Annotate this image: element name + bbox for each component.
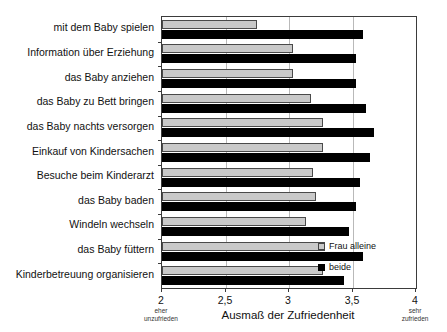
y-axis-tick	[158, 165, 162, 166]
bar-frau-alleine	[162, 168, 313, 177]
category-label: Einkauf von Kindersachen	[0, 146, 154, 157]
bar-frau-alleine	[162, 192, 316, 201]
bar-group	[162, 214, 416, 239]
bar-group	[162, 42, 416, 67]
y-axis-tick	[158, 214, 162, 215]
bar-group	[162, 91, 416, 116]
chart-legend: Frau alleine beide	[318, 241, 376, 283]
bar-frau-alleine	[162, 94, 311, 103]
category-label: Windeln wechseln	[0, 219, 154, 230]
bar-group	[162, 17, 416, 42]
category-label: das Baby füttern	[0, 244, 154, 255]
legend-swatch-beide	[318, 264, 325, 271]
x-axis-title: Ausmaß der Zufriedenheit	[161, 309, 415, 321]
category-label: das Baby nachts versorgen	[0, 121, 154, 132]
y-axis-tick	[158, 116, 162, 117]
y-axis-tick	[158, 140, 162, 141]
x-axis-tick	[288, 288, 289, 292]
x-axis-tick-label: 2	[141, 294, 181, 306]
bar-group	[162, 263, 416, 288]
y-axis-tick	[158, 239, 162, 240]
bar-group	[162, 116, 416, 141]
plot-area	[161, 16, 417, 289]
category-label: mit dem Baby spielen	[0, 22, 154, 33]
bar-beide	[162, 202, 356, 211]
bar-frau-alleine	[162, 69, 293, 78]
bar-group	[162, 66, 416, 91]
y-axis-tick	[158, 91, 162, 92]
bar-beide	[162, 128, 374, 137]
satisfaction-bar-chart: mit dem Baby spielenInformation über Erz…	[0, 0, 447, 332]
bar-frau-alleine	[162, 217, 306, 226]
bar-beide	[162, 227, 349, 236]
category-label: Kinderbetreuung organisieren	[0, 269, 154, 280]
x-axis-tick-label: 4	[395, 294, 435, 306]
bar-frau-alleine	[162, 242, 325, 251]
x-axis-tick-label: 3	[268, 294, 308, 306]
bar-beide	[162, 276, 344, 285]
legend-swatch-frau-alleine	[318, 243, 325, 250]
category-label: das Baby zu Bett bringen	[0, 96, 154, 107]
category-label: Information über Erziehung	[0, 47, 154, 58]
legend-label-frau-alleine: Frau alleine	[329, 241, 376, 251]
y-axis-tick	[158, 263, 162, 264]
x-axis-tick	[161, 288, 162, 292]
category-label: das Baby baden	[0, 195, 154, 206]
x-axis-tick	[225, 288, 226, 292]
y-axis-tick	[158, 189, 162, 190]
bar-group	[162, 239, 416, 264]
y-axis-tick	[158, 42, 162, 43]
legend-label-beide: beide	[329, 262, 351, 272]
bar-beide	[162, 54, 356, 63]
bar-beide	[162, 30, 363, 39]
bar-beide	[162, 104, 366, 113]
category-label: das Baby anziehen	[0, 72, 154, 83]
legend-item: beide	[318, 262, 376, 272]
bar-frau-alleine	[162, 118, 323, 127]
x-axis-tick	[415, 288, 416, 292]
x-axis-tick	[352, 288, 353, 292]
category-axis-labels: mit dem Baby spielenInformation über Erz…	[0, 16, 158, 287]
x-axis-tick-label: 3,5	[332, 294, 372, 306]
bar-beide	[162, 153, 370, 162]
bar-frau-alleine	[162, 20, 257, 29]
bar-frau-alleine	[162, 44, 293, 53]
legend-item: Frau alleine	[318, 241, 376, 251]
x-axis-tick-label: 2,5	[205, 294, 245, 306]
bar-beide	[162, 178, 360, 187]
bar-beide	[162, 79, 356, 88]
bar-frau-alleine	[162, 266, 323, 275]
bar-group	[162, 140, 416, 165]
y-axis-tick	[158, 66, 162, 67]
bar-group	[162, 189, 416, 214]
bar-frau-alleine	[162, 143, 323, 152]
category-label: Besuche beim Kinderarzt	[0, 170, 154, 181]
bar-group	[162, 165, 416, 190]
